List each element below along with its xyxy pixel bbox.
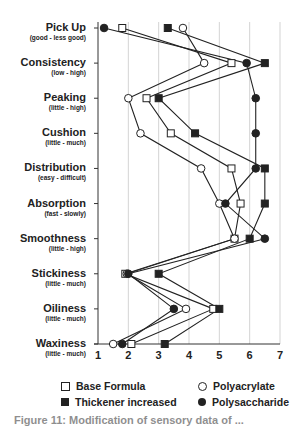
category-label: Oiliness	[43, 302, 86, 314]
filled-circle-marker	[100, 24, 108, 32]
open-square-marker	[228, 165, 235, 172]
filled-circle-marker	[252, 130, 260, 138]
filled-square-marker	[192, 130, 199, 137]
figure-caption: Figure 11: Modification of sensory data …	[14, 414, 244, 426]
legend-label: Polyacrylate	[213, 380, 275, 392]
x-tick-label: 4	[186, 349, 193, 361]
open-circle-marker	[137, 130, 145, 138]
filled-square-icon	[61, 398, 69, 406]
open-circle-marker	[200, 59, 208, 67]
filled-square-marker	[161, 341, 168, 348]
category-label: Absorption	[27, 197, 86, 209]
filled-circle-marker	[118, 340, 126, 348]
category-label: Cushion	[42, 126, 86, 138]
filled-circle-marker	[125, 270, 133, 278]
category-label: Peaking	[44, 91, 86, 103]
filled-square-marker	[155, 95, 162, 102]
x-tick-label: 1	[95, 349, 101, 361]
category-label: Distribution	[24, 161, 86, 173]
filled-square-marker	[261, 60, 268, 67]
filled-square-marker	[261, 200, 268, 207]
filled-square-marker	[164, 25, 171, 32]
open-square-icon	[61, 382, 70, 391]
filled-circle-marker	[170, 305, 178, 313]
legend-item-thickener-increased: Thickener increased	[61, 396, 177, 408]
category-sublabel: (little - much)	[45, 350, 86, 358]
legend-item-base-formula: Base Formula	[61, 380, 145, 392]
category-sublabel: (little - much)	[45, 280, 86, 288]
series-line	[122, 28, 240, 344]
sensory-profile-chart: 1234567Pick Up(good - less good)Consiste…	[0, 0, 300, 380]
open-square-marker	[119, 25, 126, 32]
x-tick-label: 6	[247, 349, 253, 361]
x-tick-label: 7	[277, 349, 283, 361]
category-label: Consistency	[21, 56, 87, 68]
series-line	[159, 28, 265, 344]
open-circle-marker	[182, 305, 190, 313]
open-circle-marker	[179, 24, 187, 32]
category-sublabel: (easy - difficult)	[38, 174, 86, 182]
filled-square-marker	[246, 235, 253, 242]
category-label: Smoothness	[20, 232, 86, 244]
category-sublabel: (little - high)	[49, 245, 86, 253]
open-square-marker	[167, 130, 174, 137]
series-line	[113, 28, 234, 344]
category-label: Pick Up	[46, 21, 87, 33]
category-sublabel: (little - much)	[45, 139, 86, 147]
legend-item-polysaccharide: Polysaccharide	[198, 396, 289, 408]
category-label: Waxiness	[36, 337, 86, 349]
category-sublabel: (little - high)	[49, 104, 86, 112]
legend-label: Polysaccharide	[212, 396, 289, 408]
filled-square-marker	[155, 270, 162, 277]
legend-label: Thickener increased	[75, 396, 177, 408]
open-square-marker	[128, 341, 135, 348]
open-square-marker	[228, 60, 235, 67]
open-square-marker	[143, 95, 150, 102]
legend-label: Base Formula	[76, 380, 145, 392]
filled-square-marker	[261, 165, 268, 172]
category-sublabel: (low - high)	[51, 69, 86, 77]
category-sublabel: (fast - slowly)	[44, 210, 86, 218]
filled-circle-icon	[198, 398, 206, 406]
legend-item-polyacrylate: Polyacrylate	[198, 380, 275, 392]
open-circle-marker	[125, 94, 133, 102]
x-tick-label: 2	[125, 349, 131, 361]
open-circle-marker	[109, 340, 117, 348]
open-circle-marker	[197, 165, 205, 173]
category-label: Stickiness	[32, 267, 86, 279]
filled-circle-marker	[252, 94, 260, 102]
x-tick-label: 5	[216, 349, 222, 361]
filled-circle-marker	[243, 59, 251, 67]
category-sublabel: (little - much)	[45, 315, 86, 323]
open-circle-icon	[198, 382, 207, 391]
filled-circle-marker	[222, 200, 230, 208]
open-square-marker	[237, 200, 244, 207]
filled-square-marker	[216, 305, 223, 312]
filled-circle-marker	[261, 235, 269, 243]
x-tick-label: 3	[156, 349, 162, 361]
category-sublabel: (good - less good)	[30, 34, 86, 42]
filled-circle-marker	[252, 165, 260, 173]
open-circle-marker	[231, 235, 239, 243]
